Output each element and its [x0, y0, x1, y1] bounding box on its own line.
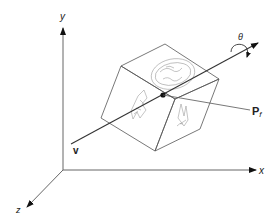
- z-axis: [27, 170, 63, 207]
- y-axis-label: y: [59, 11, 66, 22]
- point-pf-leader: [163, 95, 250, 110]
- point-pf-main: P: [252, 105, 259, 117]
- rotation-axis-label: v: [73, 145, 79, 156]
- z-axis-label: z: [15, 205, 21, 215]
- cube-right-face: [155, 79, 219, 151]
- cube: [101, 44, 219, 151]
- x-axis-label: x: [258, 165, 265, 176]
- theta-label: θ: [238, 32, 243, 42]
- rotation-axis: [71, 43, 258, 144]
- rotation-diagram: y x z v θ Pf: [0, 0, 280, 219]
- point-pf-subscript: f: [259, 110, 262, 119]
- rotation-arc-icon: [231, 44, 248, 57]
- point-pf-label: Pf: [252, 105, 262, 119]
- cube-face-texture-right: [177, 104, 188, 126]
- coordinate-axes: [27, 28, 256, 207]
